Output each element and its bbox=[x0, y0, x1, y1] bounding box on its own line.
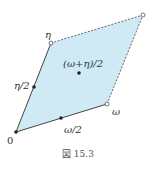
origin-point bbox=[14, 130, 18, 134]
eta-half-point bbox=[32, 85, 36, 89]
eta-label: η bbox=[45, 29, 51, 40]
eta-half-label: η/2 bbox=[14, 80, 30, 91]
center-label: (ω+η)/2 bbox=[63, 58, 103, 69]
eta-vertex-open bbox=[49, 41, 53, 45]
origin-label: 0 bbox=[7, 135, 13, 146]
fundamental-parallelogram-diagram: η η/2 (ω+η)/2 ω ω/2 0 図 15.3 bbox=[0, 0, 149, 172]
omega-vertex-open bbox=[105, 102, 109, 106]
omega-half-label: ω/2 bbox=[64, 124, 82, 135]
figure-caption: 図 15.3 bbox=[62, 149, 94, 159]
omega-half-point bbox=[59, 116, 63, 120]
sum-vertex-open bbox=[141, 13, 145, 17]
center-point bbox=[77, 71, 81, 75]
omega-label: ω bbox=[112, 106, 120, 117]
